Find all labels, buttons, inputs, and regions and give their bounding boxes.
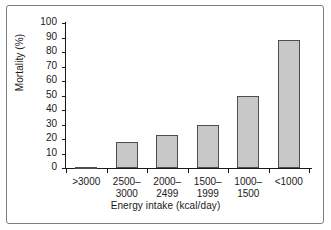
y-axis-tick-label: 70 [46, 60, 57, 71]
y-axis-title: Mortality (%) [14, 8, 25, 118]
y-axis-tick-label: 100 [40, 16, 57, 27]
x-axis-tick-label: 1500– 1999 [188, 176, 229, 199]
x-axis-tick-label: >3000 [66, 176, 107, 188]
x-axis-title: Energy intake (kcal/day) [0, 200, 331, 211]
x-axis-tick-mark [147, 169, 148, 173]
y-axis-tick-label: 20 [46, 132, 57, 143]
x-axis-tick-mark [269, 169, 270, 173]
x-axis-tick-label: 2500– 3000 [107, 176, 148, 199]
x-axis-tick-mark [66, 169, 67, 173]
y-axis-tick-label: 50 [46, 89, 57, 100]
x-axis-tick-mark [107, 169, 108, 173]
chart-figure: Mortality (%) 0102030405060708090100 >30… [0, 0, 331, 230]
x-axis-tick-label: <1000 [269, 176, 310, 188]
y-axis-tick-label: 40 [46, 103, 57, 114]
x-axis-tick-mark [309, 169, 310, 173]
bar [197, 125, 219, 169]
x-axis-tick-label: 2000– 2499 [147, 176, 188, 199]
y-axis-tick-label: 10 [46, 147, 57, 158]
y-axis-tick-label: 0 [51, 161, 57, 172]
x-axis-tick-mark [228, 169, 229, 173]
plot-area [66, 23, 309, 168]
y-axis-tick-label: 60 [46, 74, 57, 85]
bar [237, 96, 259, 169]
x-axis-tick-label: 1000– 1500 [228, 176, 269, 199]
y-axis-tick-label: 30 [46, 118, 57, 129]
x-axis-tick-mark [188, 169, 189, 173]
x-axis-line [65, 168, 312, 169]
y-axis-tick-label: 90 [46, 31, 57, 42]
y-axis-tick-label: 80 [46, 45, 57, 56]
bar [75, 167, 97, 169]
bar [278, 40, 300, 168]
bar [156, 135, 178, 168]
bar [116, 142, 138, 168]
